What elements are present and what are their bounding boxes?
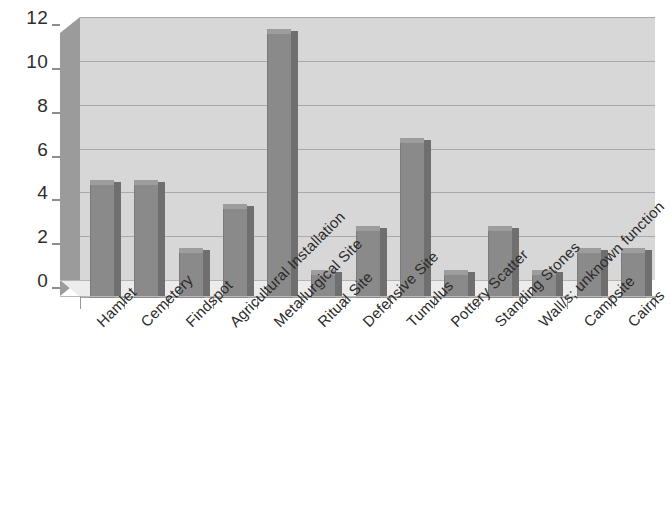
x-category-label: Hamlet [93,284,139,330]
x-category-label: Defensive Site [359,248,441,330]
bar-chart: 024681012 HamletCemeteryFindspotAgricult… [0,0,671,526]
x-category-label: Pottery Scatter [447,246,531,330]
x-category-label: Cairns [624,287,668,331]
x-axis-category-labels: HamletCemeteryFindspotAgricultural Insta… [0,0,671,526]
